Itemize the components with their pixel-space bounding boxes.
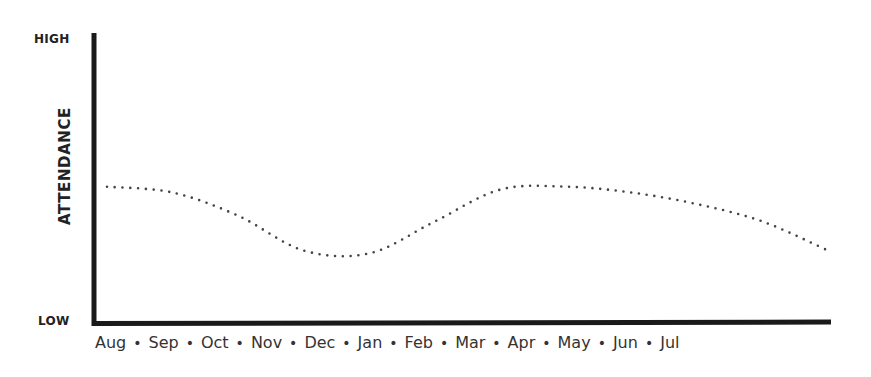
x-tick-may: May bbox=[558, 333, 591, 352]
x-tick-jun: Jun bbox=[613, 333, 638, 352]
tick-separator-dot: • bbox=[598, 335, 606, 351]
x-axis-tick-labels: Aug•Sep•Oct•Nov•Dec•Jan•Feb•Mar•Apr•May•… bbox=[95, 333, 835, 352]
x-tick-nov: Nov bbox=[251, 333, 282, 352]
x-tick-mar: Mar bbox=[455, 333, 485, 352]
x-tick-aug: Aug bbox=[95, 333, 126, 352]
tick-separator-dot: • bbox=[389, 335, 397, 351]
tick-separator-dot: • bbox=[492, 335, 500, 351]
tick-separator-dot: • bbox=[289, 335, 297, 351]
x-tick-oct: Oct bbox=[201, 333, 229, 352]
x-tick-sep: Sep bbox=[149, 333, 179, 352]
x-tick-jul: Jul bbox=[660, 333, 679, 352]
tick-separator-dot: • bbox=[645, 335, 653, 351]
attendance-line bbox=[107, 186, 828, 256]
tick-separator-dot: • bbox=[440, 335, 448, 351]
x-tick-feb: Feb bbox=[405, 333, 433, 352]
plot-area bbox=[0, 0, 871, 377]
tick-separator-dot: • bbox=[186, 335, 194, 351]
x-tick-apr: Apr bbox=[508, 333, 536, 352]
x-tick-dec: Dec bbox=[304, 333, 335, 352]
tick-separator-dot: • bbox=[342, 335, 350, 351]
attendance-chart: HIGH LOW ATTENDANCE Aug•Sep•Oct•Nov•Dec•… bbox=[0, 0, 871, 377]
tick-separator-dot: • bbox=[236, 335, 244, 351]
tick-separator-dot: • bbox=[542, 335, 550, 351]
x-tick-jan: Jan bbox=[358, 333, 383, 352]
tick-separator-dot: • bbox=[133, 335, 141, 351]
x-axis-line bbox=[92, 322, 831, 324]
